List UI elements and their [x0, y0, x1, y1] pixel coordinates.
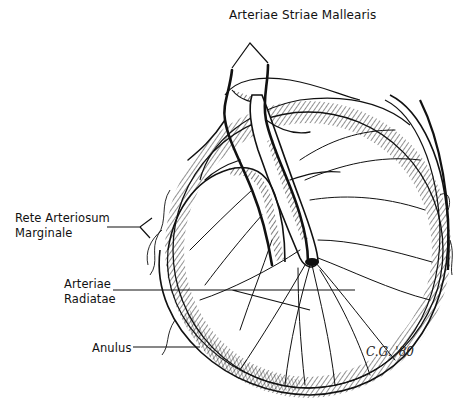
artist-signature: C.G. '80: [366, 345, 414, 359]
tympanic-membrane-drawing: [0, 0, 457, 400]
anatomical-illustration: Arteriae Striae Mallearis Rete Arteriosu…: [0, 0, 457, 400]
label-line: Rete Arteriosum: [15, 211, 110, 226]
label-line: Radiatae: [64, 292, 116, 307]
label-arteriae-striae-mallearis: Arteriae Striae Mallearis: [229, 8, 376, 23]
leader-rete: [107, 218, 152, 238]
label-rete-arteriosum-marginale: Rete Arteriosum Marginale: [15, 211, 110, 241]
leader-striae: [232, 43, 268, 68]
label-anulus: Anulus: [92, 341, 132, 356]
label-line: Arteriae: [64, 277, 116, 292]
label-arteriae-radiatae: Arteriae Radiatae: [64, 277, 116, 307]
label-line: Marginale: [15, 226, 110, 241]
